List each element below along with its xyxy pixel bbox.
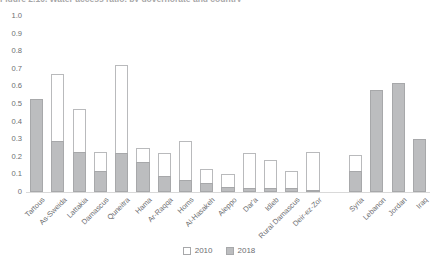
bar-group-lattakia [73, 16, 86, 192]
bar-2018[interactable] [264, 188, 277, 192]
bar-group-dar-a [243, 16, 256, 192]
bar-group-rural-damascus [285, 16, 298, 192]
y-axis: 00.10.20.30.40.50.60.70.80.91.0 [0, 16, 24, 192]
plot-area [26, 16, 430, 192]
bar-group-hama [136, 16, 149, 192]
legend-swatch-2018-icon [226, 247, 234, 255]
bar-2018[interactable] [392, 83, 405, 192]
x-axis-baseline [26, 192, 430, 193]
bar-group-lebanon [370, 16, 383, 192]
legend-item-2010[interactable]: 2010 [183, 246, 213, 255]
bar-2010[interactable] [306, 152, 319, 192]
bar-group-iraq [413, 16, 426, 192]
y-axis-tick-0.8: 0.8 [0, 47, 22, 55]
bar-2018[interactable] [136, 162, 149, 192]
bar-group-deir-ez-zor [306, 16, 319, 192]
bar-group-damascus [94, 16, 107, 192]
bar-2018[interactable] [179, 180, 192, 192]
bar-group-tartous [30, 16, 43, 192]
bar-group-aleppo [221, 16, 234, 192]
y-axis-tick-0.5: 0.5 [0, 100, 22, 108]
y-axis-tick-0.7: 0.7 [0, 65, 22, 73]
bar-2018[interactable] [413, 139, 426, 192]
bar-group-idleb [264, 16, 277, 192]
figure-title: Figure 2.10. Water access ratio, by gove… [0, 0, 438, 2]
bar-2018[interactable] [30, 99, 43, 192]
legend-label-2010: 2010 [195, 246, 213, 255]
x-axis-label-jordan: Jordan [387, 196, 409, 218]
y-axis-tick-1.0: 1.0 [0, 12, 22, 20]
bar-group-al-hasakeh [200, 16, 213, 192]
x-axis-label-dar-a: Dar'a [242, 196, 260, 214]
bar-2018[interactable] [73, 152, 86, 192]
legend-item-2018[interactable]: 2018 [226, 246, 256, 255]
x-axis-label-aleppo: Aleppo [216, 196, 238, 218]
bar-group-quneitra [115, 16, 128, 192]
bar-2018[interactable] [115, 153, 128, 192]
y-axis-tick-0.4: 0.4 [0, 118, 22, 126]
bar-2018[interactable] [349, 171, 362, 192]
bar-2010[interactable] [243, 153, 256, 192]
bar-2018[interactable] [200, 183, 213, 192]
bar-2018[interactable] [221, 187, 234, 192]
y-axis-tick-0.6: 0.6 [0, 83, 22, 91]
bar-2018[interactable] [51, 141, 64, 192]
chart-legend: 2010 2018 [0, 246, 438, 255]
x-axis-label-quneitra: Quneitra [106, 196, 132, 222]
y-axis-tick-0: 0 [0, 188, 22, 196]
y-axis-tick-0.1: 0.1 [0, 171, 22, 179]
bar-group-ar-raqqa [158, 16, 171, 192]
x-axis-label-iraq: Iraq [415, 196, 430, 211]
bar-2010[interactable] [264, 160, 277, 192]
bar-group-homs [179, 16, 192, 192]
bar-2018[interactable] [158, 176, 171, 192]
bar-2018[interactable] [243, 188, 256, 192]
legend-label-2018: 2018 [238, 246, 256, 255]
y-axis-tick-0.3: 0.3 [0, 135, 22, 143]
bar-group-jordan [392, 16, 405, 192]
bar-2018[interactable] [306, 190, 319, 192]
bar-group-syria [349, 16, 362, 192]
bar-2018[interactable] [370, 90, 383, 192]
bar-2018[interactable] [285, 188, 298, 192]
bar-group-spacer [328, 16, 341, 192]
y-axis-tick-0.2: 0.2 [0, 153, 22, 161]
y-axis-tick-0.9: 0.9 [0, 30, 22, 38]
bar-2018[interactable] [94, 171, 107, 192]
bar-group-as-sweida [51, 16, 64, 192]
legend-swatch-2010-icon [183, 247, 191, 255]
x-axis-label-syria: Syria [348, 196, 366, 214]
